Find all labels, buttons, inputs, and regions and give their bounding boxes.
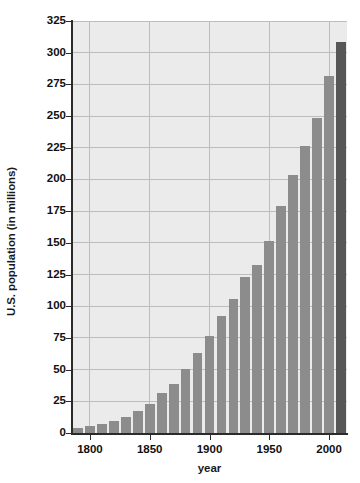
y-axis-tick-mark [66, 243, 71, 244]
x-axis-tick-label: 1950 [239, 443, 299, 455]
y-axis-tick-mark [66, 338, 71, 339]
bar [205, 336, 215, 433]
y-axis-tick-mark [66, 84, 71, 85]
y-axis-tick-label: 250 [26, 110, 66, 122]
bar [133, 411, 143, 433]
x-axis-tick-mark [210, 434, 211, 440]
x-axis-tick-mark [90, 434, 91, 440]
y-axis-tick-label: 325 [26, 15, 66, 27]
x-axis-label: year [72, 462, 347, 474]
bar [264, 241, 274, 433]
y-axis-tick-mark [66, 370, 71, 371]
y-axis-tick-mark [66, 306, 71, 307]
y-axis-tick-mark [66, 401, 71, 402]
bar [193, 353, 203, 433]
bar [229, 299, 239, 433]
y-axis-tick-mark [66, 433, 71, 434]
y-axis-tick-label: 125 [26, 269, 66, 281]
bar [181, 369, 191, 433]
bar [336, 42, 346, 433]
y-axis-tick-label: 225 [26, 142, 66, 154]
y-axis-tick-mark [66, 148, 71, 149]
gridline-vertical [149, 21, 150, 433]
y-axis-tick-mark [66, 21, 71, 22]
bar [169, 384, 179, 433]
y-axis-tick-mark [66, 275, 71, 276]
bar [85, 426, 95, 433]
y-axis-tick-label: 25 [26, 396, 66, 408]
bar [252, 265, 262, 433]
x-axis-tick-mark [269, 434, 270, 440]
bar [312, 118, 322, 433]
bar [288, 175, 298, 433]
bar [300, 146, 310, 433]
plot-area [72, 21, 347, 433]
bar [240, 277, 250, 433]
bar [157, 393, 167, 433]
bar [145, 404, 155, 433]
y-axis-tick-label: 200 [26, 174, 66, 186]
y-axis-tick-mark [66, 53, 71, 54]
y-axis-tick-label: 150 [26, 237, 66, 249]
y-axis-tick-label: 275 [26, 79, 66, 91]
y-axis-tick-mark [66, 116, 71, 117]
x-axis-tick-label: 1850 [120, 443, 180, 455]
bar [121, 417, 131, 433]
y-axis-tick-label: 0 [26, 427, 66, 439]
y-axis-tick-label: 100 [26, 300, 66, 312]
x-axis-tick-mark [329, 434, 330, 440]
y-axis-tick-labels: 0255075100125150175200225250275300325 [26, 0, 66, 483]
y-axis-line [71, 20, 73, 434]
y-axis-tick-mark [66, 211, 71, 212]
population-bar-chart: U.S. population (in millions) 0255075100… [0, 0, 360, 483]
x-axis-tick-label: 2000 [299, 443, 359, 455]
bar [97, 424, 107, 433]
x-axis-tick-label: 1900 [180, 443, 240, 455]
gridline-vertical [89, 21, 90, 433]
bar [324, 76, 334, 433]
bar [217, 316, 227, 433]
bar [109, 421, 119, 433]
x-axis-tick-label: 1800 [60, 443, 120, 455]
y-axis-tick-label: 300 [26, 47, 66, 59]
x-axis-tick-mark [150, 434, 151, 440]
y-axis-tick-label: 175 [26, 205, 66, 217]
y-axis-tick-label: 50 [26, 364, 66, 376]
y-axis-tick-label: 75 [26, 332, 66, 344]
y-axis-tick-mark [66, 179, 71, 180]
bar [276, 206, 286, 433]
y-axis-label: U.S. population (in millions) [0, 0, 22, 483]
